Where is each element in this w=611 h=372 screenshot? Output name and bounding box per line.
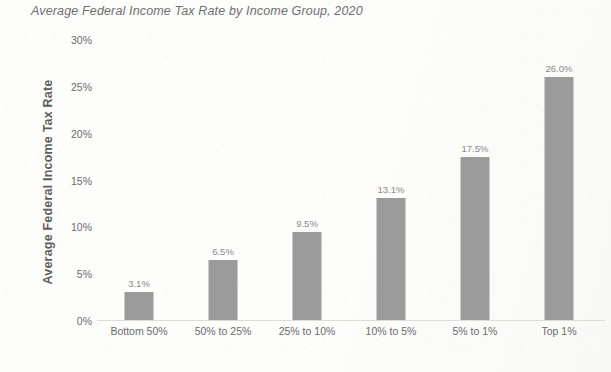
bar-group: 3.1% <box>97 40 181 321</box>
x-axis-tick-label: 10% to 5% <box>349 325 433 337</box>
y-axis-title: Average Federal Income Tax Rate <box>41 57 55 307</box>
chart-title: Average Federal Income Tax Rate by Incom… <box>31 4 363 18</box>
bar-value-label: 13.1% <box>378 184 405 195</box>
x-axis-baseline <box>97 320 605 321</box>
x-axis-tick-label: 50% to 25% <box>181 325 265 337</box>
bar-value-label: 6.5% <box>212 246 234 257</box>
y-axis-tick-label: 25% <box>71 81 92 93</box>
bar-group: 9.5% <box>265 40 349 321</box>
y-axis-tick-label: 0% <box>77 315 92 327</box>
bar[interactable] <box>461 157 490 321</box>
y-axis-tick-label: 10% <box>71 221 92 233</box>
x-axis-tick-labels: Bottom 50%50% to 25%25% to 10%10% to 5%5… <box>97 325 602 345</box>
y-axis-tick-label: 30% <box>71 34 92 46</box>
y-axis-tick-label: 15% <box>71 175 92 187</box>
bar-group: 13.1% <box>349 40 433 321</box>
bar-group: 17.5% <box>433 40 517 321</box>
bar-group: 26.0% <box>517 40 601 321</box>
bar[interactable] <box>293 232 322 321</box>
plot-area: 3.1%6.5%9.5%13.1%17.5%26.0% <box>97 40 602 321</box>
bar-group: 6.5% <box>181 40 265 321</box>
bar[interactable] <box>209 260 238 321</box>
chart-page: Average Federal Income Tax Rate by Incom… <box>0 0 611 372</box>
x-axis-tick-label: 25% to 10% <box>265 325 349 337</box>
y-axis-tick-labels: 0%5%10%15%20%25%30% <box>56 40 92 321</box>
y-axis-tick-label: 5% <box>77 268 92 280</box>
bar[interactable] <box>125 292 154 321</box>
y-axis-tick-label: 20% <box>71 128 92 140</box>
bar[interactable] <box>545 77 574 321</box>
bar-value-label: 17.5% <box>462 143 489 154</box>
bar-value-label: 3.1% <box>128 278 150 289</box>
x-axis-tick-label: Bottom 50% <box>97 325 181 337</box>
x-axis-tick-label: Top 1% <box>517 325 601 337</box>
bar-value-label: 26.0% <box>546 63 573 74</box>
bar[interactable] <box>377 198 406 321</box>
bar-value-label: 9.5% <box>296 218 318 229</box>
x-axis-tick-label: 5% to 1% <box>433 325 517 337</box>
